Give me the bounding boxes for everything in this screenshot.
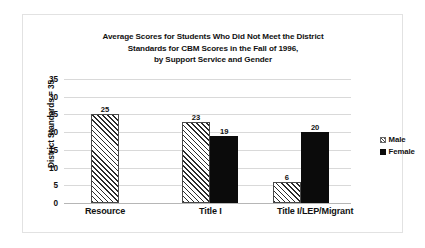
category-label-title-i: Title I (199, 206, 222, 216)
bar-resource-male[interactable]: 25 (91, 114, 119, 203)
chart-title-line-2: Standards for CBM Scores in the Fall of … (53, 43, 373, 55)
y-tick-25: 25 (49, 110, 58, 119)
y-tick-0: 0 (54, 199, 58, 208)
y-tick-15: 15 (49, 145, 58, 154)
bar-label-title-i-lep-migrant-male: 6 (285, 173, 289, 182)
x-axis-category-labels: Resource Title I Title I/LEP/Migrant (64, 206, 351, 222)
chart-frame: Average Scores for Students Who Did Not … (22, 14, 403, 233)
chart-legend: Male Female (380, 134, 425, 158)
legend-item-male[interactable]: Male (380, 134, 425, 145)
chart-title-line-1: Average Scores for Students Who Did Not … (53, 31, 373, 43)
y-tick-30: 30 (49, 92, 58, 101)
y-tick-5: 5 (54, 181, 58, 190)
bar-title-i-lep-migrant-male[interactable]: 6 (273, 182, 301, 203)
bar-title-i-lep-migrant-female[interactable]: 20 (301, 132, 329, 203)
bars-layer: 25 23 19 6 20 (64, 79, 351, 203)
bar-title-i-male[interactable]: 23 (182, 122, 210, 203)
legend-swatch-male-icon (380, 137, 386, 143)
plot-area: 25 23 19 6 20 (64, 79, 351, 203)
axis-baseline (64, 203, 351, 204)
y-tick-20: 20 (49, 128, 58, 137)
y-axis-tick-labels: 35 30 25 20 15 10 5 0 (23, 79, 61, 203)
legend-item-female[interactable]: Female (380, 146, 425, 157)
bar-label-title-i-lep-migrant-female: 20 (311, 123, 319, 132)
chart-title: Average Scores for Students Who Did Not … (53, 31, 373, 66)
category-label-resource: Resource (85, 206, 125, 216)
y-tick-35: 35 (49, 75, 58, 84)
chart-title-line-3: by Support Service and Gender (53, 54, 373, 66)
bar-title-i-female[interactable]: 19 (210, 136, 238, 203)
bar-label-resource-male: 25 (101, 105, 109, 114)
y-tick-10: 10 (49, 163, 58, 172)
bar-label-title-i-female: 19 (220, 127, 228, 136)
category-label-title-i-lep-migrant: Title I/LEP/Migrant (277, 206, 353, 216)
legend-label-male: Male (389, 135, 406, 144)
bar-label-title-i-male: 23 (192, 113, 200, 122)
legend-label-female: Female (389, 147, 415, 156)
legend-swatch-female-icon (380, 149, 386, 155)
